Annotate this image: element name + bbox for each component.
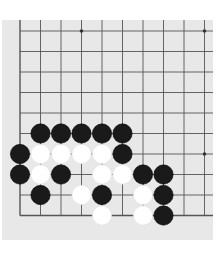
white-stone [72,185,91,204]
white-stone [92,206,111,225]
white-stone [92,165,111,184]
white-stone [72,144,91,163]
go-board-diagram [0,0,223,261]
black-stone [10,165,29,184]
black-stone [31,124,50,143]
white-stone [92,144,111,163]
black-stone [92,185,111,204]
black-stone [154,206,173,225]
white-stone [31,144,50,163]
black-stone [133,165,152,184]
white-stone [31,165,50,184]
white-stone [133,185,152,204]
star-point [203,29,207,33]
star-point [80,29,84,33]
black-stone [113,144,132,163]
black-stone [92,124,111,143]
white-stone [133,206,152,225]
black-stone [154,165,173,184]
black-stone [113,124,132,143]
white-stone [51,144,70,163]
black-stone [51,124,70,143]
black-stone [154,185,173,204]
go-board [0,0,223,261]
star-point [203,152,207,156]
black-stone [72,124,91,143]
black-stone [10,144,29,163]
black-stone [31,185,50,204]
black-stone [51,165,70,184]
white-stone [113,165,132,184]
